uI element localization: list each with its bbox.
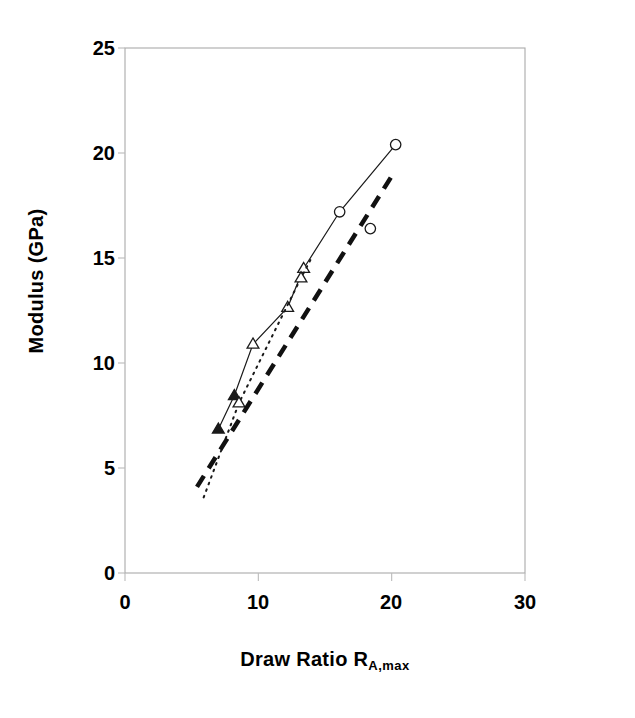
plot-canvas: [0, 0, 635, 718]
data-series-group: [197, 139, 401, 497]
chart-figure: Modulus (GPa) 25 20 15 10 5 0 0 10 20 30…: [0, 0, 635, 718]
lower-open-circle-point: [365, 223, 375, 233]
solid-line-series: [212, 139, 400, 433]
dotted-line-series: [204, 260, 311, 497]
dashed-reference-line: [197, 172, 394, 487]
plot-frame: [125, 48, 525, 573]
axis-ticks: [118, 48, 525, 581]
